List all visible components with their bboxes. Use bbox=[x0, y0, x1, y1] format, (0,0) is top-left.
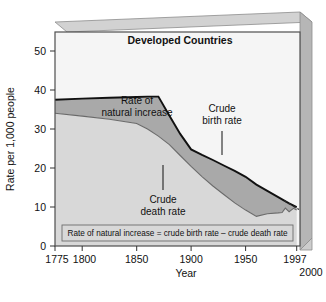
y-tick-label-20: 20 bbox=[34, 162, 46, 174]
annotation-natural-increase-line2: natural increase bbox=[101, 107, 173, 118]
x-tick-label-2000: 2000 bbox=[299, 266, 323, 278]
x-tick-label-1997: 1997 bbox=[283, 253, 307, 265]
y-axis-title: Rate per 1,000 people bbox=[4, 87, 16, 191]
annotation-crude-birth-rate-line2: birth rate bbox=[202, 115, 242, 126]
x-tick-label-1850: 1850 bbox=[125, 253, 149, 265]
x-axis-title: Year bbox=[175, 267, 197, 279]
x-tick-label-1900: 1900 bbox=[179, 253, 203, 265]
y-axis: 0 10 20 30 40 50 Rate per 1,000 people bbox=[4, 45, 55, 252]
chart-figure: 0 10 20 30 40 50 Rate per 1,000 people 1… bbox=[0, 0, 326, 302]
x-tick-label-1775: 1775 bbox=[45, 253, 69, 265]
y-tick-label-30: 30 bbox=[34, 123, 46, 135]
x-tick-label-1800: 1800 bbox=[73, 253, 97, 265]
frame-right-bevel bbox=[300, 12, 312, 250]
y-tick-label-50: 50 bbox=[34, 45, 46, 57]
x-axis: 1775 1800 1850 1900 1950 1997 2000 Year bbox=[45, 246, 323, 279]
x-tick-marks bbox=[55, 246, 297, 251]
y-tick-label-0: 0 bbox=[40, 240, 46, 252]
chart-title: Developed Countries bbox=[127, 34, 232, 46]
frame-top-bevel bbox=[55, 12, 312, 32]
annotation-natural-increase-line1: Rate of bbox=[121, 95, 153, 106]
annotation-crude-death-rate-line2: death rate bbox=[140, 206, 185, 217]
y-tick-marks bbox=[50, 51, 55, 246]
y-tick-label-40: 40 bbox=[34, 84, 46, 96]
annotation-crude-birth-rate-line1: Crude bbox=[208, 103, 236, 114]
demographic-transition-chart: 0 10 20 30 40 50 Rate per 1,000 people 1… bbox=[0, 0, 326, 302]
annotation-crude-death-rate-line1: Crude bbox=[149, 194, 177, 205]
y-tick-label-10: 10 bbox=[34, 201, 46, 213]
x-tick-label-1950: 1950 bbox=[234, 253, 258, 265]
footnote-text: Rate of natural increase = crude birth r… bbox=[67, 229, 288, 238]
